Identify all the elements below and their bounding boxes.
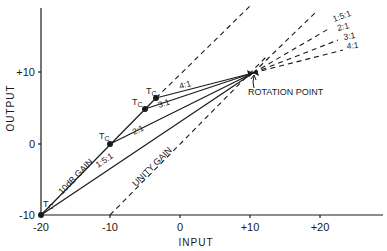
- ratio-1-5-inline-label: 1:5:1: [94, 151, 115, 170]
- tc-label: TC: [43, 199, 54, 210]
- ratio-1-5-extension: [253, 13, 315, 73]
- x-tick-label: +20: [311, 221, 330, 233]
- x-tick-label: -20: [33, 221, 49, 233]
- ratio-4-extension: [253, 50, 343, 73]
- y-tick-label: -10: [19, 209, 35, 221]
- y-tick-labels: +10 0 -10: [16, 66, 35, 221]
- ratio-3-extension: [253, 40, 338, 73]
- ratio-2-extension: [253, 28, 330, 73]
- y-tick-label: 0: [29, 138, 35, 150]
- x-tick-label: 0: [177, 221, 183, 233]
- tc-point-1-5: [38, 212, 44, 218]
- ratio-4-right-label: 4:1: [346, 40, 359, 51]
- y-tick-label: +10: [16, 66, 35, 78]
- ratio-2-inline-label: 2:1: [130, 123, 145, 137]
- tc-label: TC: [146, 86, 157, 97]
- axes: [38, 8, 383, 218]
- gain-10db-label: 10dB GAIN: [56, 157, 95, 197]
- x-axis-title: INPUT: [179, 237, 214, 248]
- tc-label: TC: [132, 97, 143, 108]
- x-tick-labels: -20 -10 0 +10 +20: [33, 221, 329, 233]
- unity-gain-label: UNITY GAIN: [130, 145, 173, 188]
- x-tick-label: -10: [102, 221, 118, 233]
- tc-label: TC: [99, 131, 110, 142]
- y-axis-title: OUTPUT: [5, 84, 16, 131]
- tc-point-3: [142, 106, 148, 112]
- compression-ratio-chart: +10 0 -10 -20 -10 0 +10 +20 INPUT OUTPUT: [0, 0, 387, 251]
- rotation-point-label: ROTATION POINT: [248, 87, 324, 97]
- gain-10db-line: [41, 98, 156, 215]
- x-tick-label: +10: [241, 221, 260, 233]
